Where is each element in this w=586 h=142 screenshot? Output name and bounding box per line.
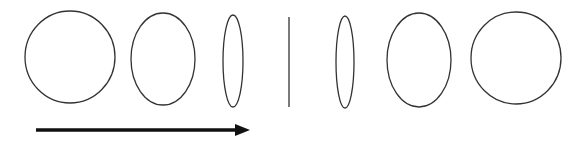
circle-left — [25, 11, 115, 103]
ellipse-right-medium — [387, 13, 451, 107]
circle-right — [471, 12, 561, 104]
ellipse-left-medium — [131, 13, 195, 105]
ellipse-left-narrow — [223, 15, 243, 107]
direction-arrow-icon — [36, 124, 250, 136]
ellipse-right-narrow — [336, 16, 354, 108]
diagram-canvas — [0, 0, 586, 142]
